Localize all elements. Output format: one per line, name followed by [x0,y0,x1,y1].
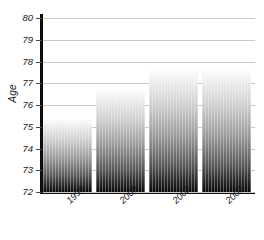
y-axis-tick [36,62,42,63]
y-axis-tick [36,105,42,106]
y-axis-tick-label: 80 [11,12,33,23]
bar-series [43,18,255,192]
y-axis-tick-label: 79 [11,34,33,45]
y-axis-tick [36,18,42,19]
y-axis-tick [36,40,42,41]
y-axis-tick-label: 74 [11,143,33,154]
y-axis-tick-label: 72 [11,186,33,197]
plot-area [43,18,255,192]
y-axis-tick-label: 78 [11,56,33,67]
y-axis-tick [36,83,42,84]
y-axis-tick [36,192,42,193]
bar-chart: Age 807978777675747372 1990200020022003 [0,0,264,240]
bar [96,88,145,192]
y-axis-tick [36,127,42,128]
y-axis-tick-label: 73 [11,164,33,175]
bar [149,68,198,192]
bar [43,118,92,192]
y-axis-tick [36,170,42,171]
y-axis-tick-label: 77 [11,77,33,88]
bar [202,68,251,192]
y-axis-tick [36,149,42,150]
y-axis-tick-label: 75 [11,121,33,132]
y-axis-tick-label: 76 [11,99,33,110]
